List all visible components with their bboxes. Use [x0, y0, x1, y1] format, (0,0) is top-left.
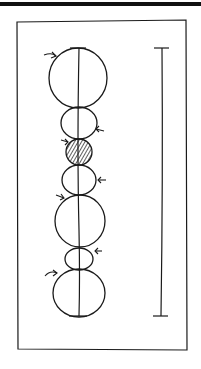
arrow-icon-seg1 — [44, 52, 56, 58]
arrow-icon-seg7 — [45, 270, 57, 276]
segment-3-hatched-circle — [66, 139, 92, 165]
arrow-icon-seg4 — [98, 177, 106, 183]
sketch-diagram — [0, 0, 201, 369]
segment-5-circle — [55, 195, 105, 247]
segment-2-circle — [61, 107, 97, 139]
segment-4-circle — [62, 165, 96, 195]
arrow-icon-seg3 — [61, 139, 68, 145]
central-axis — [69, 48, 87, 316]
arrow-icon-seg2 — [96, 126, 104, 132]
scale-bar — [153, 48, 169, 316]
arrow-icon-seg5 — [56, 194, 64, 200]
arrow-icon-seg6 — [95, 248, 102, 254]
